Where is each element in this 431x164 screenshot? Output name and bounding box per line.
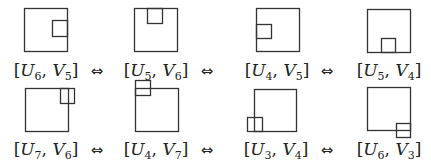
label-u5-v4: [U5, V4]: [357, 62, 422, 79]
square-u5-v6: [135, 9, 178, 52]
equivalence-arrow: ⇔: [201, 64, 214, 79]
square-u6-v5: [25, 9, 68, 52]
inner-square: [257, 25, 272, 39]
label-u7-v6: [U7, V6]: [14, 141, 79, 158]
inner-square: [148, 9, 163, 24]
square-u4-v5: [257, 9, 300, 52]
equivalence-arrow: ⇔: [91, 143, 104, 158]
inner-square: [53, 21, 68, 37]
inner-square: [382, 39, 396, 53]
label-u3-v4: [U3, V4]: [244, 141, 309, 158]
equivalence-arrow: ⇔: [321, 143, 334, 158]
equivalence-arrow: ⇔: [91, 64, 104, 79]
label-u4-v7: [U4, V7]: [124, 141, 189, 158]
label-u4-v5: [U4, V5]: [245, 62, 310, 79]
square-u5-v4: [368, 10, 411, 53]
label-u6-v5: [U6, V5]: [14, 62, 79, 79]
equivalence-arrow: ⇔: [201, 143, 214, 158]
square-u7-v6: [26, 89, 75, 132]
inner-square: [61, 89, 75, 104]
label-u6-v3: [U6, V3]: [357, 141, 422, 158]
square-u3-v4: [248, 90, 297, 132]
square-u6-v3: [368, 88, 411, 138]
equivalence-arrow: ⇔: [321, 64, 334, 79]
square-u4-v7: [136, 81, 179, 132]
label-u5-v6: [U5, V6]: [124, 62, 189, 79]
